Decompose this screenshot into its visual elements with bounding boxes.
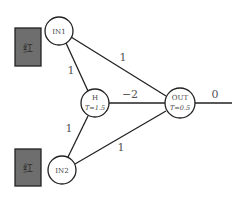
weight-in1-h: 1 bbox=[68, 64, 75, 77]
edge-in2-out bbox=[75, 111, 166, 164]
weight-in2-h: 1 bbox=[66, 122, 73, 135]
input-indicator-in2: 红 bbox=[15, 149, 41, 186]
indicator-glyph-in1: 红 bbox=[23, 42, 33, 54]
node-hidden-threshold: T=1.5 bbox=[85, 104, 105, 112]
node-in2: IN2 bbox=[48, 156, 76, 184]
input-indicator-in1: 红 bbox=[15, 28, 41, 66]
weight-h-out: −2 bbox=[122, 88, 138, 101]
node-output: OUT T=0.5 bbox=[165, 88, 195, 118]
node-in2-label: IN2 bbox=[55, 167, 68, 175]
weight-in1-out: 1 bbox=[120, 51, 127, 64]
node-in1-label: IN1 bbox=[52, 28, 65, 36]
node-output-label: OUT bbox=[172, 94, 189, 102]
edge-in1-out bbox=[71, 37, 166, 96]
output-value: 0 bbox=[212, 88, 219, 101]
node-hidden-label: H bbox=[92, 94, 98, 102]
weight-in2-out: 1 bbox=[118, 141, 125, 154]
node-output-threshold: T=0.5 bbox=[170, 104, 190, 112]
node-hidden: H T=1.5 bbox=[81, 89, 109, 117]
node-in1: IN1 bbox=[45, 17, 73, 45]
indicator-glyph-in2: 红 bbox=[23, 162, 33, 174]
network-diagram: 1 1 −2 1 1 0 红 红 IN1 H T=1.5 IN2 OUT T=0… bbox=[0, 0, 244, 199]
